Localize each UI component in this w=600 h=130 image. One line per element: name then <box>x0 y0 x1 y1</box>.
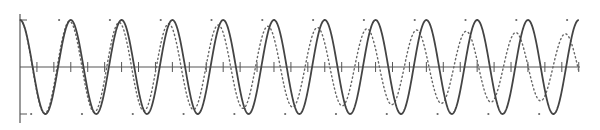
bottom-marker <box>487 113 489 115</box>
top-marker <box>464 19 466 21</box>
top-marker <box>160 19 162 21</box>
bottom-marker <box>436 113 438 115</box>
bottom-marker <box>132 113 134 115</box>
top-marker <box>414 19 416 21</box>
top-marker <box>58 19 60 21</box>
bottom-marker <box>538 113 540 115</box>
bottom-marker <box>284 113 286 115</box>
top-marker <box>109 19 111 21</box>
chart <box>0 0 600 130</box>
bottom-marker <box>335 113 337 115</box>
top-marker <box>566 19 568 21</box>
top-marker <box>363 19 365 21</box>
bottom-marker <box>30 113 32 115</box>
bottom-marker <box>233 113 235 115</box>
top-marker <box>261 19 263 21</box>
bottom-marker <box>81 113 83 115</box>
bottom-marker <box>182 113 184 115</box>
top-marker <box>312 19 314 21</box>
top-marker <box>210 19 212 21</box>
axes <box>20 14 580 123</box>
bottom-marker <box>386 113 388 115</box>
top-marker <box>515 19 517 21</box>
